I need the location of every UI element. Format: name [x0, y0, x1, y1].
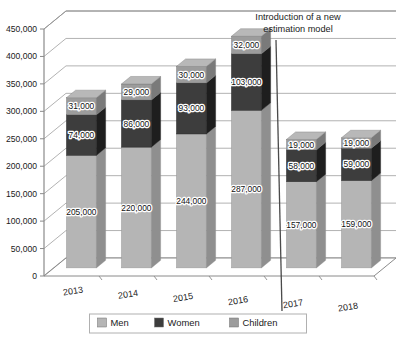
- x-axis-tick: [154, 276, 157, 280]
- legend-swatch-children: [230, 318, 239, 327]
- x-axis-tick: [99, 276, 102, 280]
- gridline-450000: [44, 11, 396, 29]
- legend-swatch-women: [155, 318, 164, 327]
- data-label: 59,000: [344, 159, 370, 169]
- data-label: 287,000: [231, 184, 262, 194]
- x-axis-tick: [319, 276, 322, 280]
- legend-item-women[interactable]: Women: [155, 317, 200, 328]
- legend-swatch-men: [98, 318, 107, 327]
- data-label: 32,000: [234, 40, 260, 50]
- gridline-350000: [44, 66, 396, 84]
- x-axis-tick-label: 2016: [227, 294, 248, 307]
- bar-side-face: [96, 148, 105, 268]
- data-labels-group: 205,000205,00074,00074,00031,00031,00022…: [66, 40, 372, 230]
- data-label: 220,000: [121, 203, 152, 213]
- bar-2015: [176, 59, 215, 268]
- bar-side-face: [206, 75, 215, 134]
- gridline-400000: [44, 38, 396, 56]
- data-label: 157,000: [286, 220, 317, 230]
- x-axis-tick-label-group: 2016: [227, 294, 248, 307]
- bar-2017: [286, 132, 325, 268]
- bar-2013: [66, 90, 105, 268]
- data-label: 159,000: [341, 219, 372, 229]
- data-label: 74,000: [69, 130, 95, 140]
- y-axis-tick-label: 0: [32, 271, 37, 281]
- annotation-line-1: Introduction of a new: [255, 12, 341, 22]
- x-axis-tick: [264, 276, 267, 280]
- x-axis-tick-label: 2015: [172, 291, 193, 304]
- bar-side-face: [151, 140, 160, 268]
- legend-label-children: Children: [243, 317, 278, 328]
- legend-item-men[interactable]: Men: [98, 317, 129, 328]
- data-label: 103,000: [231, 77, 262, 87]
- bar-side-face: [151, 92, 160, 147]
- y-axis: 050,000100,000150,000200,000250,000300,0…: [6, 24, 44, 281]
- y-axis-tick-label: 200,000: [6, 161, 37, 171]
- data-label: 31,000: [69, 101, 95, 111]
- y-axis-tick-label: 300,000: [6, 106, 37, 116]
- bar-side-face: [261, 46, 270, 110]
- data-label: 58,000: [289, 161, 315, 171]
- y-axis-tick-label: 100,000: [6, 216, 37, 226]
- y-axis-tick-label: 50,000: [11, 244, 38, 254]
- x-axis-tick-label-group: 2018: [337, 301, 358, 314]
- bar-side-face: [371, 173, 380, 268]
- bar-2018: [341, 130, 380, 268]
- x-axis-tick-label: 2018: [337, 301, 358, 314]
- data-label: 244,000: [176, 196, 207, 206]
- y-axis-tick-label: 250,000: [6, 134, 37, 144]
- data-label: 19,000: [289, 140, 315, 150]
- x-axis-tick-label-group: 2015: [172, 291, 193, 304]
- annotation-line-2: estimation model: [263, 24, 332, 34]
- x-axis-tick: [374, 276, 377, 280]
- x-axis-tick-label: 2014: [117, 288, 138, 301]
- legend-label-women: Women: [168, 317, 200, 328]
- data-label: 30,000: [179, 70, 205, 80]
- bar-side-face: [316, 174, 325, 268]
- data-label: 93,000: [179, 103, 205, 113]
- y-axis-tick-label: 150,000: [6, 189, 37, 199]
- x-axis-tick: [209, 276, 212, 280]
- data-label: 86,000: [124, 119, 150, 129]
- chart-container: 050,000100,000150,000200,000250,000300,0…: [0, 0, 396, 350]
- plot-top-border: [44, 11, 396, 29]
- bar-side-face: [96, 107, 105, 155]
- bar-2014: [121, 76, 160, 267]
- data-label: 205,000: [66, 207, 97, 217]
- x-axis-tick-label-group: 2014: [117, 288, 138, 301]
- legend-item-children[interactable]: Children: [230, 317, 278, 328]
- x-axis-tick-label-group: 2013: [62, 285, 83, 298]
- bar-2016: [231, 29, 270, 268]
- y-axis-tick-label: 450,000: [6, 24, 37, 34]
- y-axis-tick-label: 400,000: [6, 51, 37, 61]
- bar-side-face: [206, 126, 215, 267]
- data-label: 29,000: [124, 87, 150, 97]
- x-axis-tick-label-group: 2017: [282, 297, 303, 310]
- data-label: 19,000: [344, 138, 370, 148]
- bar-side-face: [261, 103, 270, 268]
- x-axis-tick-label: 2017: [282, 297, 303, 310]
- legend: MenWomenChildren: [90, 314, 307, 333]
- x-axis-tick-label: 2013: [62, 285, 83, 298]
- stacked-column-chart-3d: 050,000100,000150,000200,000250,000300,0…: [0, 0, 396, 350]
- legend-label-men: Men: [111, 317, 129, 328]
- y-axis-tick-label: 350,000: [6, 79, 37, 89]
